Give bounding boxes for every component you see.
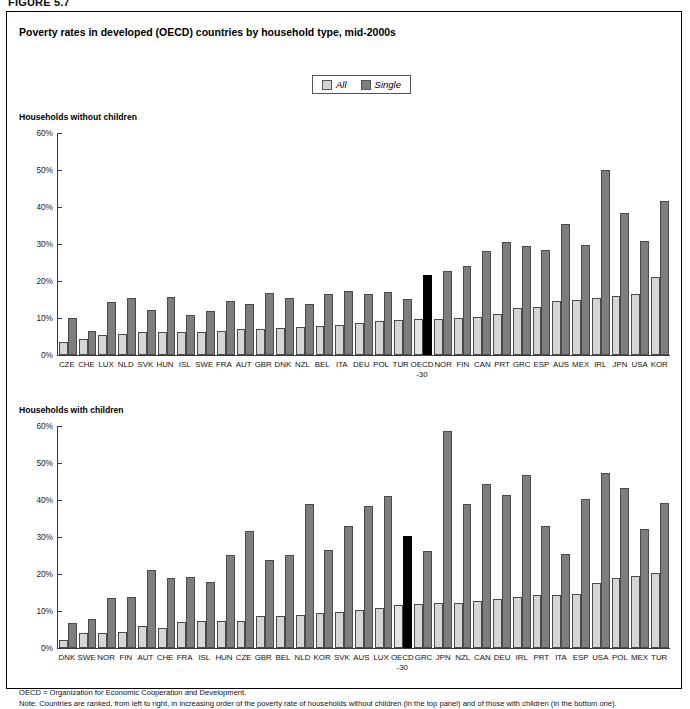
bar-single xyxy=(561,224,570,355)
bar-all xyxy=(651,573,660,648)
bar-group xyxy=(295,426,315,648)
bar-group xyxy=(492,133,512,355)
x-axis-label: ESP xyxy=(532,360,552,379)
x-axis-label: FIN xyxy=(116,653,136,672)
bar-single xyxy=(147,310,156,355)
x-axis-label: JPN xyxy=(433,653,453,672)
bar-all xyxy=(276,328,285,355)
bar-all xyxy=(316,613,325,648)
bar-single xyxy=(344,291,353,355)
bar-group xyxy=(433,133,453,355)
figure-label: FIGURE 5.7 xyxy=(8,0,70,8)
bar-all xyxy=(79,633,88,648)
bar-single xyxy=(581,499,590,648)
bar-all xyxy=(651,277,660,355)
bar-all xyxy=(256,329,265,355)
x-axis-label: AUT xyxy=(234,360,254,379)
x-axis-label: NZL xyxy=(453,653,473,672)
bar-single xyxy=(640,241,649,355)
bar-group xyxy=(157,133,177,355)
bar-single xyxy=(364,294,373,355)
x-axis-label: DEU xyxy=(352,360,372,379)
bar-all xyxy=(473,317,482,355)
x-axis-label: HUN xyxy=(214,653,234,672)
bar-all xyxy=(375,608,384,648)
bar-group xyxy=(236,133,256,355)
bar-all xyxy=(454,603,463,648)
x-axis-label: NOR xyxy=(96,653,116,672)
bar-single xyxy=(68,318,77,355)
bar-group xyxy=(295,133,315,355)
bar-single xyxy=(660,201,669,355)
bar-group xyxy=(413,426,433,648)
x-axis-label: GRC xyxy=(414,653,434,672)
bar-single xyxy=(502,242,511,355)
x-axis-label: NOR xyxy=(433,360,453,379)
bar-all xyxy=(473,601,482,648)
bar-all xyxy=(335,612,344,648)
legend-swatch-all-icon xyxy=(322,80,332,90)
x-axis-label: PRT xyxy=(492,360,512,379)
bar-single xyxy=(502,495,511,648)
x-axis-label: ISL xyxy=(194,653,214,672)
x-axis-label: ISL xyxy=(175,360,195,379)
bar-group xyxy=(176,133,196,355)
bar-single xyxy=(68,623,77,648)
bar-single xyxy=(167,578,176,648)
x-axis-label: CZE xyxy=(57,360,77,379)
bar-single xyxy=(364,506,373,648)
x-axis-label: SVK xyxy=(332,653,352,672)
bar-single xyxy=(285,555,294,648)
x-axis-label: MEX xyxy=(630,653,650,672)
bar-all xyxy=(612,578,621,648)
bar-group xyxy=(275,133,295,355)
bar-group xyxy=(334,426,354,648)
bar-all xyxy=(552,301,561,355)
bar-group xyxy=(117,133,137,355)
bar-single xyxy=(482,484,491,648)
x-axis-label: TUR xyxy=(391,360,411,379)
chart-panel-top: 60%50%40%30%20%10%0% CZECHELUXNLDSVKHUNI… xyxy=(19,128,679,393)
bar-all xyxy=(414,319,423,355)
bar-group xyxy=(630,426,650,648)
bar-all xyxy=(533,307,542,355)
chart-panel-bottom: 60%50%40%30%20%10%0% DNKSWENORFINAUTCHEF… xyxy=(19,421,679,686)
bar-single xyxy=(265,293,274,355)
bar-all xyxy=(237,621,246,648)
x-axis-labels-bottom: DNKSWENORFINAUTCHEFRAISLHUNCZEGBRBELNLDK… xyxy=(57,653,669,672)
y-axis-tick: 40% xyxy=(36,495,58,505)
x-axis-label: POL xyxy=(371,360,391,379)
bar-group xyxy=(591,133,611,355)
bar-group xyxy=(354,426,374,648)
footnote-note: Note: Countries are ranked, from left to… xyxy=(19,699,683,709)
bar-single xyxy=(107,598,116,648)
x-axis-label: OECD-30 xyxy=(391,653,414,672)
x-axis-label: KOR xyxy=(649,360,669,379)
x-axis-label: MEX xyxy=(571,360,591,379)
bar-group xyxy=(611,426,631,648)
bar-all xyxy=(138,626,147,648)
x-axis-label: LUX xyxy=(371,653,391,672)
x-axis-label: NZL xyxy=(293,360,313,379)
x-axis-label: LUX xyxy=(96,360,116,379)
legend-swatch-single-icon xyxy=(361,80,371,90)
bar-single xyxy=(167,297,176,355)
x-axis-label: USA xyxy=(630,360,650,379)
bar-group xyxy=(472,133,492,355)
bar-all xyxy=(552,595,561,648)
bar-all xyxy=(197,332,206,355)
x-axis-label-sub: -30 xyxy=(411,370,434,380)
bar-group xyxy=(650,426,670,648)
x-axis-label: KOR xyxy=(312,653,332,672)
x-axis-label: FRA xyxy=(214,360,234,379)
x-axis-label: HUN xyxy=(155,360,175,379)
bar-all xyxy=(296,615,305,648)
bar-all xyxy=(513,597,522,648)
bar-group xyxy=(78,133,98,355)
bar-group xyxy=(374,133,394,355)
bar-single xyxy=(463,266,472,355)
bar-single xyxy=(443,431,452,648)
legend-label-all: All xyxy=(336,79,347,90)
bar-all xyxy=(316,326,325,355)
y-axis-tick: 30% xyxy=(36,239,58,249)
